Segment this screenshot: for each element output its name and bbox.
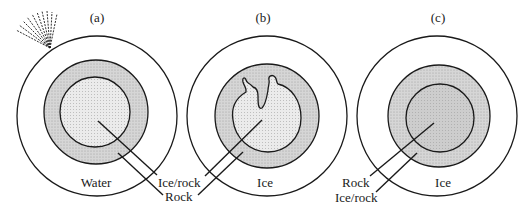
core-a (60, 77, 130, 147)
pointer-label-c2: Ice/rock (335, 190, 378, 205)
outer-label-b: Ice (257, 175, 273, 190)
pointer-label-c1: Rock (342, 175, 370, 190)
panel-a-title: (a) (90, 10, 104, 25)
pointer-label-a2: Rock (165, 189, 193, 204)
panel-b-title: (b) (255, 10, 270, 25)
core-c (406, 84, 474, 152)
panel-c-title: (c) (431, 10, 445, 25)
outer-label-a: Water (81, 175, 112, 190)
pointer-line-b2 (198, 152, 243, 195)
outer-label-c: Ice (435, 175, 451, 190)
pointer-label-a1: Ice/rock (158, 175, 201, 190)
panel-b: (b) Ice (187, 10, 347, 196)
interior-structure-diagram: (a) Water Ice/rock Rock (b) Ice (0, 0, 531, 216)
panel-a: (a) Water Ice/rock Rock (16, 10, 201, 204)
panel-c: (c) Ice Rock Ice/rock (335, 10, 517, 205)
pointer-line-c2 (376, 153, 417, 192)
plume-icon (16, 11, 57, 48)
